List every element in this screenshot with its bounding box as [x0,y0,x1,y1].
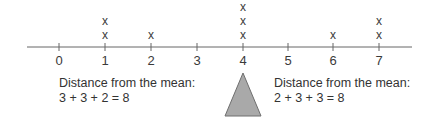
tick-label-4: 4 [239,53,246,68]
left-caption: Distance from the mean: 3 + 3 + 2 = 8 [59,76,195,106]
tick-label-6: 6 [329,53,336,68]
tick-label-3: 3 [193,53,200,68]
x-mark: x [148,28,154,42]
x-mark: x [240,14,246,28]
x-mark: x [376,28,382,42]
tick-label-0: 0 [55,53,62,68]
tick-label-2: 2 [147,53,154,68]
x-mark: x [330,28,336,42]
x-mark: x [240,0,246,14]
x-mark: x [102,14,108,28]
tick-label-5: 5 [284,53,291,68]
left-caption-title: Distance from the mean: [59,76,195,91]
left-caption-sum: 3 + 3 + 2 = 8 [59,91,195,106]
tick-labels: 0 1 2 3 4 5 6 7 [55,53,382,68]
right-caption: Distance from the mean: 2 + 3 + 3 = 8 [274,76,410,106]
right-caption-sum: 2 + 3 + 3 = 8 [274,91,410,106]
x-mark: x [240,28,246,42]
tick-label-7: 7 [375,53,382,68]
tick-label-1: 1 [101,53,108,68]
data-marks: x x x x x x x x x [102,0,382,42]
right-caption-title: Distance from the mean: [274,76,410,91]
x-mark: x [376,14,382,28]
x-mark: x [102,28,108,42]
fulcrum-triangle-icon [225,73,261,116]
